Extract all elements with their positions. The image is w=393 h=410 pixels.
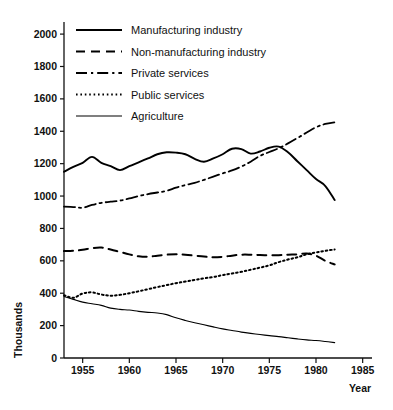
y-tick-label: 200 — [39, 319, 57, 331]
x-axis-title: Year — [349, 382, 371, 394]
x-tick-label: 1970 — [211, 364, 235, 376]
y-tick-label: 0 — [51, 352, 57, 364]
x-tick-label: 1975 — [258, 364, 282, 376]
x-tick-label: 1980 — [304, 364, 328, 376]
chart-figure: 0200400600800100012001400160018002000 19… — [0, 0, 393, 410]
legend-label: Public services — [131, 89, 205, 101]
y-tick-label: 1800 — [34, 60, 58, 72]
x-tick-label: 1955 — [71, 364, 95, 376]
legend-label: Private services — [131, 67, 209, 79]
x-tick-label: 1960 — [118, 364, 142, 376]
y-tick-label: 1600 — [34, 92, 58, 104]
y-tick-label: 600 — [39, 254, 57, 266]
y-tick-label: 2000 — [34, 28, 58, 40]
legend-label: Manufacturing industry — [131, 24, 243, 36]
y-tick-label: 800 — [39, 222, 57, 234]
legend-label: Agriculture — [131, 110, 184, 122]
y-axis-title: Thousands — [12, 302, 24, 358]
chart-background — [0, 0, 393, 410]
y-tick-label: 1400 — [34, 125, 58, 137]
line-chart: 0200400600800100012001400160018002000 19… — [0, 0, 393, 410]
x-tick-label: 1985 — [351, 364, 375, 376]
legend-label: Non-manufacturing industry — [131, 46, 267, 58]
y-tick-label: 400 — [39, 287, 57, 299]
y-tick-label: 1000 — [34, 190, 58, 202]
x-tick-label: 1965 — [164, 364, 188, 376]
y-tick-label: 1200 — [34, 157, 58, 169]
